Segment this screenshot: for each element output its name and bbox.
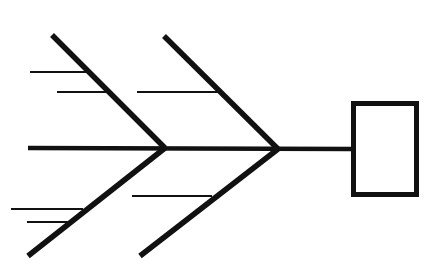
fishbone-diagram <box>0 0 429 264</box>
bone-lower-left <box>28 148 165 256</box>
bone-lower-right <box>140 149 278 256</box>
spine-line <box>28 148 352 149</box>
head-box <box>354 104 417 195</box>
